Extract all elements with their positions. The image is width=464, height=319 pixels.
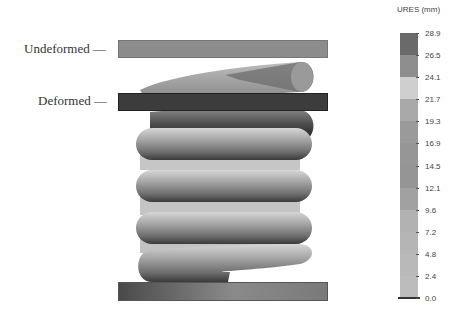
legend-tick	[416, 276, 419, 277]
legend-tick	[416, 232, 419, 233]
legend-tick-label: 4.8	[425, 249, 436, 258]
coil-front-1	[136, 128, 312, 160]
legend-band	[400, 254, 418, 277]
legend-tick	[416, 33, 419, 34]
legend-band	[400, 143, 418, 166]
legend-band	[400, 77, 418, 100]
legend-band	[400, 210, 418, 233]
legend-tick	[416, 55, 419, 56]
legend-tick-label: 0.0	[425, 294, 436, 303]
legend-tick-label: 12.1	[425, 183, 441, 192]
legend-band	[400, 276, 418, 299]
base-plate	[118, 282, 328, 301]
legend-tick-label: 24.1	[425, 73, 441, 82]
legend-band	[400, 166, 418, 189]
legend-band	[400, 33, 418, 56]
legend-tick-label: 19.3	[425, 117, 441, 126]
legend-tick-label: 16.9	[425, 139, 441, 148]
legend-tick	[416, 121, 419, 122]
legend-tick-label: 14.5	[425, 161, 441, 170]
legend-title: URES (mm)	[397, 5, 440, 14]
legend-tick	[416, 188, 419, 189]
coil-front-3	[136, 212, 312, 244]
legend-band	[400, 99, 418, 122]
legend-tick	[416, 254, 419, 255]
deformed-plate	[118, 93, 328, 111]
legend-tick-label: 9.6	[425, 205, 436, 214]
legend-tick-label: 21.7	[425, 95, 441, 104]
coil-front-2	[136, 170, 312, 202]
legend-tick-label: 26.5	[425, 51, 441, 60]
legend-tick	[416, 298, 419, 299]
legend-tick	[416, 166, 419, 167]
legend-band	[400, 121, 418, 144]
legend-tick	[416, 210, 419, 211]
legend-band	[400, 232, 418, 255]
legend-tick	[416, 143, 419, 144]
undeformed-plate	[118, 40, 328, 58]
legend-tick-label: 7.2	[425, 227, 436, 236]
legend-band	[400, 188, 418, 211]
legend-band	[400, 55, 418, 78]
legend-tick	[416, 77, 419, 78]
coil-front-4	[138, 244, 312, 282]
legend-tick-label: 28.9	[425, 29, 441, 38]
legend-tick	[416, 99, 419, 100]
legend-tick-label: 2.4	[425, 271, 436, 280]
